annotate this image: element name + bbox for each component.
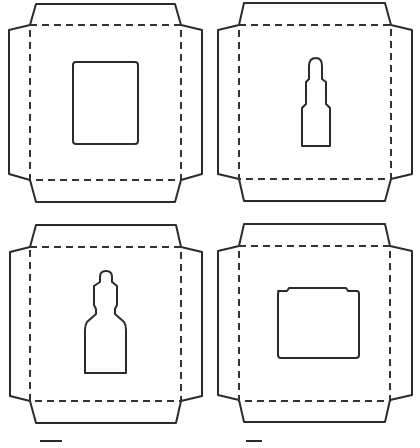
- dieline-panel-jar: [218, 224, 412, 422]
- dieline-panel-rectangle: [9, 4, 202, 202]
- window-cutout-bottle: [85, 271, 126, 373]
- dieline-sheet: [0, 0, 420, 448]
- window-cutout-vial: [302, 58, 330, 146]
- window-cutout-rectangle: [73, 62, 138, 144]
- dieline-panel-vial: [218, 3, 412, 201]
- dieline-panel-bottle: [10, 225, 202, 423]
- window-cutout-jar: [278, 288, 359, 358]
